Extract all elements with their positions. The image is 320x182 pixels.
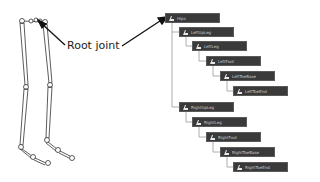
joint-node-leftfoot[interactable]: LeftFoot — [206, 56, 261, 66]
joint-icon — [209, 134, 216, 141]
joint-node-lefttoebase[interactable]: LeftToeBase — [220, 71, 275, 81]
joint-node-righttoebase[interactable]: RightToeBase — [220, 147, 275, 157]
joint-icon — [182, 29, 189, 36]
joint-label: RightLeg — [204, 120, 222, 125]
joint-label: RightToeBase — [232, 150, 259, 155]
joint-icon — [236, 88, 243, 95]
joint-label: RightToeEnd — [245, 165, 270, 170]
joint-node-leftupleg[interactable]: LeftUpLeg — [179, 27, 234, 37]
joint-node-rightfoot[interactable]: RightFoot — [206, 132, 261, 142]
joint-label: LeftLeg — [204, 44, 219, 49]
joint-node-rightleg[interactable]: RightLeg — [192, 117, 247, 127]
joint-icon — [236, 164, 243, 171]
joint-icon — [223, 149, 230, 156]
joint-icon — [209, 58, 216, 65]
joint-label: LeftFoot — [218, 59, 234, 64]
joint-node-rightupleg[interactable]: RightUpLeg — [179, 102, 234, 112]
joint-icon — [168, 15, 175, 22]
root-joint-arrow — [38, 20, 65, 45]
joint-node-righttoeend[interactable]: RightToeEnd — [233, 162, 288, 172]
joint-node-leftleg[interactable]: LeftLeg — [192, 41, 247, 51]
joint-label: Hips — [177, 16, 186, 21]
joint-node-hips[interactable]: Hips — [165, 13, 220, 23]
joint-icon — [182, 104, 189, 111]
joint-icon — [195, 119, 202, 126]
joint-icon — [223, 73, 230, 80]
joint-label: RightFoot — [218, 135, 237, 140]
hips-arrow — [122, 17, 167, 46]
root-joint-label: Root joint — [67, 39, 120, 52]
joint-label: LeftToeEnd — [245, 89, 267, 94]
joint-icon — [195, 43, 202, 50]
joint-node-lefttoeend[interactable]: LeftToeEnd — [233, 86, 288, 96]
joint-label: RightUpLeg — [191, 105, 214, 110]
joint-label: LeftToeBase — [232, 74, 256, 79]
joint-label: LeftUpLeg — [191, 30, 211, 35]
